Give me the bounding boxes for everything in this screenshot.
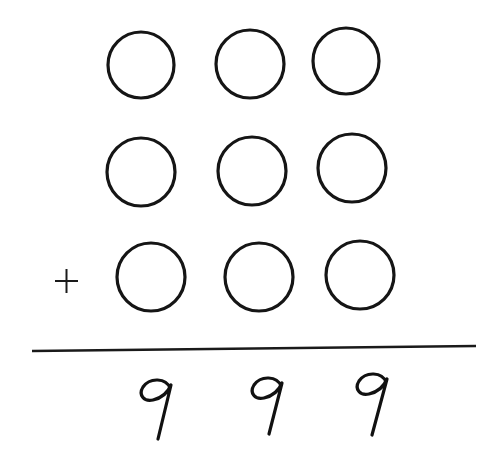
blank-digit-circle[interactable] (313, 28, 379, 94)
result-digit-nine (252, 378, 282, 434)
blank-digit-circle[interactable] (218, 137, 286, 205)
blank-digit-circle[interactable] (326, 241, 394, 309)
blank-digit-circle[interactable] (108, 32, 174, 98)
blank-digit-circle[interactable] (225, 243, 293, 311)
sum-divider-line (32, 346, 476, 351)
puzzle-drawing (0, 0, 501, 467)
result-digit-nine (357, 374, 387, 435)
result-digit-nine (141, 380, 171, 439)
blank-digit-circle[interactable] (107, 138, 175, 206)
plus-sign (55, 269, 78, 293)
blank-digit-circle[interactable] (318, 134, 386, 202)
blank-digit-circle[interactable] (216, 30, 284, 98)
blank-digit-circle[interactable] (117, 243, 185, 311)
